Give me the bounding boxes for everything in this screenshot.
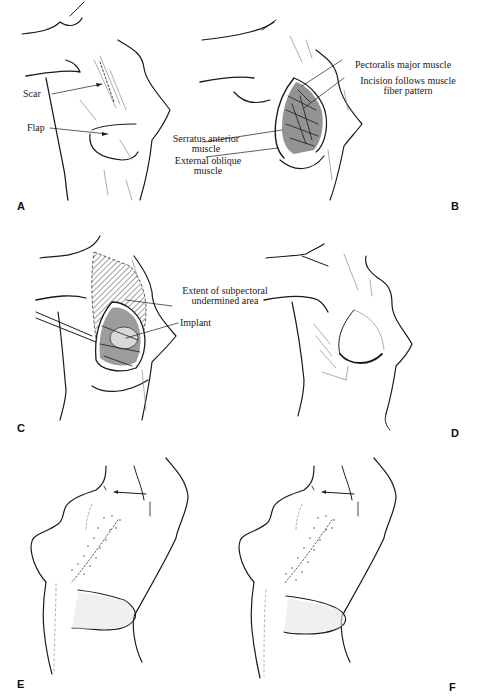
annotation-flap: Flap — [27, 123, 45, 133]
annotation-implant: Implant — [180, 318, 211, 328]
panel-a: Scar Flap A — [0, 0, 240, 220]
panel-d: D — [240, 220, 479, 450]
panel-f: F — [240, 450, 479, 698]
panel-b: Pectoralis major muscle Incision follows… — [240, 0, 479, 220]
annotation-incision-fiber-pattern: Incision follows muscle fiber pattern — [356, 76, 460, 96]
panel-label-c: C — [17, 422, 25, 434]
panel-e: E — [0, 450, 240, 698]
annotation-incision-line2: fiber pattern — [356, 86, 460, 96]
annotation-external-oblique: External oblique muscle — [168, 156, 248, 176]
annotation-oblique-line2: muscle — [168, 166, 248, 176]
panel-label-f: F — [449, 681, 456, 693]
panel-c: Extent of subpectoral undermined area Im… — [0, 220, 240, 450]
panel-label-b: B — [451, 200, 459, 212]
annotation-serratus-line2: muscle — [165, 144, 247, 154]
torso-illustration-c — [0, 220, 240, 450]
torso-illustration-e — [0, 450, 240, 698]
annotation-scar: Scar — [23, 89, 41, 99]
panel-label-d: D — [451, 427, 459, 439]
panel-label-e: E — [17, 678, 24, 690]
torso-illustration-f — [240, 450, 479, 698]
torso-illustration-d — [240, 220, 479, 450]
panel-label-a: A — [17, 200, 25, 212]
annotation-serratus-anterior: Serratus anterior muscle — [165, 134, 247, 154]
torso-illustration-b — [240, 0, 479, 220]
annotation-pectoralis-major: Pectoralis major muscle — [355, 60, 451, 70]
torso-illustration-a — [0, 0, 240, 220]
